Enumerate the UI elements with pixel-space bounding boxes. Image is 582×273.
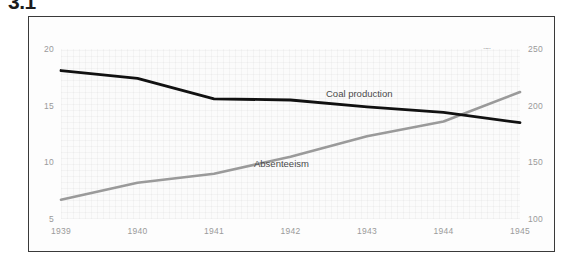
x-tick-1939: 1939: [51, 227, 71, 236]
series-plot: [61, 49, 520, 219]
right-tick-3: 100: [528, 215, 543, 224]
left-tick-1: 15: [44, 102, 54, 111]
x-tick-1945: 1945: [510, 227, 530, 236]
series-label-absenteeism: Absenteeism: [254, 159, 309, 169]
right-tick-1: 200: [528, 102, 543, 111]
x-tick-1940: 1940: [127, 227, 147, 236]
right-tick-2: 150: [528, 158, 543, 167]
right-tick-0: 250: [528, 45, 543, 54]
x-tick-1944: 1944: [433, 227, 453, 236]
x-tick-1943: 1943: [357, 227, 377, 236]
x-tick-1942: 1942: [280, 227, 300, 236]
plot-area: 20 15 10 5 250 200 150 100 1939 1940 194…: [61, 49, 520, 219]
series-label-coal-production: Coal production: [326, 89, 393, 99]
left-tick-2: 10: [44, 158, 54, 167]
left-tick-3: 5: [49, 215, 54, 224]
chart-page: 3.1 Percentage Million tons 20 15 10 5 2…: [0, 0, 582, 273]
left-tick-0: 20: [44, 45, 54, 54]
figure-number: 3.1: [8, 0, 36, 12]
chart-frame: Percentage Million tons 20 15 10 5 250 2…: [28, 16, 555, 252]
line-coal-production: [61, 71, 520, 123]
line-absenteeism: [61, 92, 520, 200]
x-tick-1941: 1941: [204, 227, 224, 236]
